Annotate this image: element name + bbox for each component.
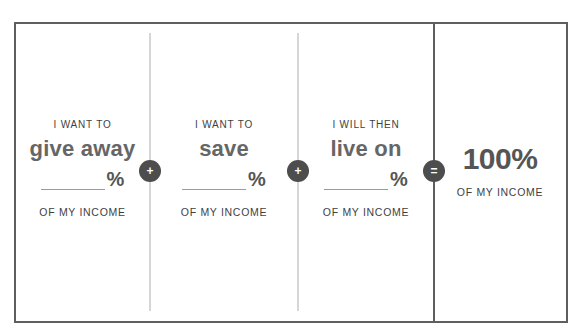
live-on-column: I WILL THEN live on % OF MY INCOME <box>299 22 433 321</box>
percent-symbol: % <box>390 168 408 190</box>
percent-field-row: % <box>41 168 125 190</box>
plus-icon: + <box>287 160 309 182</box>
lead-text: I WANT TO <box>195 119 253 130</box>
verb-text: save <box>199 136 249 162</box>
save-column: I WANT TO save % OF MY INCOME <box>151 22 297 321</box>
percent-field-row: % <box>182 168 266 190</box>
live-on-percent-blank[interactable] <box>324 169 388 190</box>
give-away-percent-blank[interactable] <box>41 169 105 190</box>
lead-text: I WANT TO <box>54 119 112 130</box>
percent-symbol: % <box>107 168 125 190</box>
tail-text: OF MY INCOME <box>181 206 267 218</box>
tail-text: OF MY INCOME <box>323 206 409 218</box>
plus-icon: + <box>139 160 161 182</box>
total-value: 100% <box>463 142 538 176</box>
tail-text: OF MY INCOME <box>457 186 543 198</box>
give-away-column: I WANT TO give away % OF MY INCOME <box>16 22 149 321</box>
verb-text: live on <box>330 136 401 162</box>
percent-field-row: % <box>324 168 408 190</box>
percent-symbol: % <box>248 168 266 190</box>
verb-text: give away <box>30 136 136 162</box>
save-percent-blank[interactable] <box>182 169 246 190</box>
tail-text: OF MY INCOME <box>39 206 125 218</box>
lead-text: I WILL THEN <box>332 119 399 130</box>
total-column: 100% OF MY INCOME <box>435 22 565 321</box>
